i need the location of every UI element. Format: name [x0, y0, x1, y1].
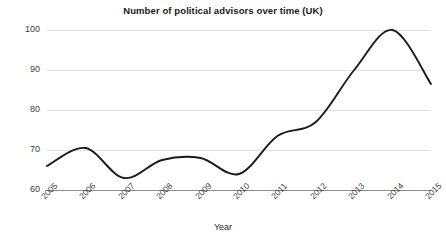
- y-axis-tick-label: 60: [10, 184, 40, 194]
- plot-area: [47, 30, 431, 190]
- y-axis-tick-labels: 60708090100: [8, 30, 40, 190]
- x-axis-title: Year: [0, 222, 446, 232]
- chart-title: Number of political advisors over time (…: [0, 5, 446, 16]
- line-series: [47, 30, 431, 190]
- series-line-path: [47, 30, 431, 178]
- y-axis-tick-label: 100: [10, 24, 40, 34]
- y-axis-tick-label: 90: [10, 64, 40, 74]
- y-axis-tick-label: 70: [10, 144, 40, 154]
- chart-container: Number of political advisors over time (…: [0, 0, 446, 243]
- y-axis-tick-label: 80: [10, 104, 40, 114]
